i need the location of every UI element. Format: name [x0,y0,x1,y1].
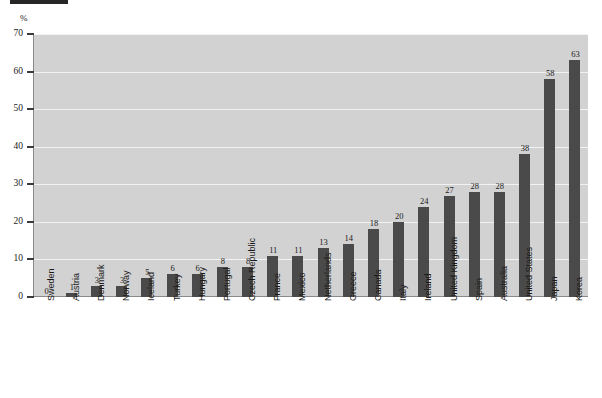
bar-value-label: 28 [462,181,488,191]
bar-group[interactable]: 63 [562,34,588,297]
bar-group[interactable]: 3 [109,34,135,297]
bar-value-label: 14 [336,233,362,243]
bar-value-label: 11 [285,245,311,255]
bar-group[interactable]: 6 [185,34,211,297]
x-axis-category-text: Italy [399,284,408,301]
bar-value-label: 38 [512,143,538,153]
y-axis-tick-label: 50 [14,103,24,114]
bar-group[interactable]: 11 [285,34,311,297]
x-axis-category-text: United States [525,247,534,301]
x-axis-category-text: Korea [575,277,584,301]
x-axis-category-text: Netherlands [324,252,333,301]
bar-group[interactable]: 24 [411,34,437,297]
x-axis-category-text: Australia [500,266,509,301]
bar-group[interactable]: 58 [537,34,563,297]
x-axis-category-text: Austria [72,273,81,301]
bar-group[interactable]: 1 [59,34,85,297]
y-axis-unit-label: % [20,14,28,23]
bar-group[interactable]: 11 [260,34,286,297]
x-axis-category-text: Norway [122,270,131,301]
x-axis-category-text: France [273,273,282,301]
y-axis-tick-label: 60 [14,66,24,77]
bar-group[interactable]: 28 [487,34,513,297]
chart-figure: % 010203040506070 0133566881111131418202… [0,0,602,398]
x-axis-category-text: Turkey [173,274,182,301]
y-axis-tick-label: 20 [14,216,24,227]
y-axis-tick-label: 30 [14,178,24,189]
bar-value-label: 6 [160,263,186,273]
x-axis-category-labels: SwedenAustriaDenmarkNorwayIcelandTurkeyH… [34,299,588,398]
x-axis-category-text: Mexico [298,272,307,301]
bar-value-label: 24 [411,196,437,206]
bar[interactable] [544,79,555,297]
bar-value-label: 13 [311,237,337,247]
y-axis-tick-label: 70 [14,28,24,39]
bar-value-label: 20 [386,211,412,221]
x-axis-category-text: Denmark [97,264,106,301]
x-axis-category-text: Japan [550,276,559,301]
x-axis-category-text: Hungary [198,267,207,301]
bars-layer: 01335668811111314182024272828385863 [34,34,588,297]
redacted-header-bar [10,0,68,4]
bar-value-label: 63 [562,49,588,59]
bar-group[interactable]: 18 [361,34,387,297]
bar-group[interactable]: 28 [462,34,488,297]
x-axis-category-text: Canada [374,269,383,301]
bar[interactable] [569,60,580,297]
x-axis-category-text: Czech Republic [248,238,257,301]
bar-value-label: 11 [260,245,286,255]
y-axis-tick-label: 40 [14,141,24,152]
x-axis-category-text: Greece [349,271,358,301]
bar-group[interactable]: 0 [34,34,60,297]
bar-value-label: 18 [361,218,387,228]
bar-value-label: 58 [537,68,563,78]
bar-group[interactable]: 14 [336,34,362,297]
bar-group[interactable]: 5 [134,34,160,297]
bar-group[interactable]: 3 [84,34,110,297]
y-axis-tick-label: 0 [18,291,23,302]
x-axis-category-text: Ireland [424,273,433,301]
bar-value-label: 28 [487,181,513,191]
x-axis-category-text: Spain [475,278,484,301]
x-axis-category-text: Portugal [223,267,232,301]
x-axis-category-text: United Kingdom [450,237,459,301]
x-axis-category-text: Sweden [47,268,56,301]
bar-group[interactable]: 8 [210,34,236,297]
x-axis-category-text: Iceland [147,272,156,301]
bar-value-label: 27 [437,185,463,195]
bar-group[interactable]: 20 [386,34,412,297]
bar-value-label: 8 [210,256,236,266]
y-axis-tick-label: 10 [14,253,24,264]
bar-group[interactable]: 6 [160,34,186,297]
